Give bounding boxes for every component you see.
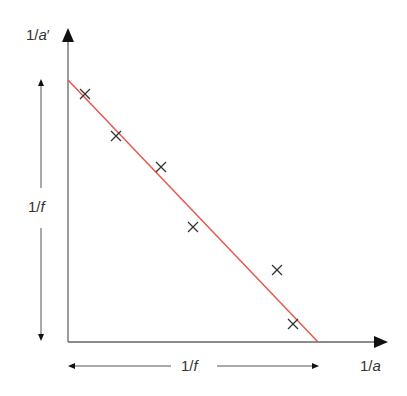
x-axis-label-prefix: 1/	[360, 357, 373, 374]
data-markers	[80, 89, 298, 329]
y-axis-arrow-icon	[62, 28, 74, 42]
y-span-arrow-up-icon	[38, 79, 44, 86]
x-axis-label-var: a	[373, 357, 381, 374]
y-axis-label-suffix: ′	[47, 26, 50, 43]
x-span-label-prefix: 1/	[181, 357, 194, 374]
y-span-label-var: f	[41, 198, 45, 215]
marker-x-icon	[272, 265, 282, 275]
y-axis-label: 1/a′	[26, 26, 50, 43]
x-span-arrow-right-icon	[312, 363, 319, 369]
marker-x-icon	[288, 319, 298, 329]
marker-x-icon	[156, 162, 166, 172]
x-span-arrow-left-icon	[68, 363, 75, 369]
y-span-label-prefix: 1/	[28, 198, 41, 215]
y-axis-label-prefix: 1/	[26, 26, 39, 43]
fit-line	[68, 80, 318, 342]
marker-x-icon	[188, 222, 198, 232]
y-span-arrow-down-icon	[38, 334, 44, 341]
x-span-label-var: f	[194, 357, 198, 374]
x-span-label: 1/f	[181, 357, 198, 374]
diagram-canvas	[0, 0, 407, 396]
y-axis-label-var: a	[39, 26, 47, 43]
x-axis-arrow-icon	[374, 336, 388, 348]
marker-x-icon	[111, 131, 121, 141]
y-span-label: 1/f	[28, 198, 45, 215]
x-axis-label: 1/a	[360, 357, 381, 374]
